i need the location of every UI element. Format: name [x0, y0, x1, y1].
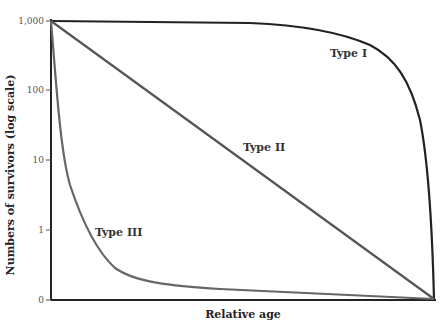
type-ii-label: Type II — [243, 141, 285, 154]
y-tick-0: 0 — [38, 295, 44, 305]
y-tick-10: 10 — [33, 155, 45, 165]
y-tick-1: 1 — [38, 225, 44, 235]
y-axis-title: Numbers of survivors (log scale) — [4, 75, 17, 276]
type-ii-line — [51, 21, 434, 299]
y-ticks: 1,000 100 10 1 0 — [18, 16, 51, 305]
type-iii-label: Type III — [95, 226, 142, 239]
type-i-label: Type I — [330, 47, 367, 60]
survivorship-chart: 1,000 100 10 1 0 Type I Type II Type III… — [0, 0, 446, 329]
y-tick-100: 100 — [27, 85, 44, 95]
x-axis-title: Relative age — [205, 308, 281, 321]
y-tick-1000: 1,000 — [18, 16, 44, 26]
